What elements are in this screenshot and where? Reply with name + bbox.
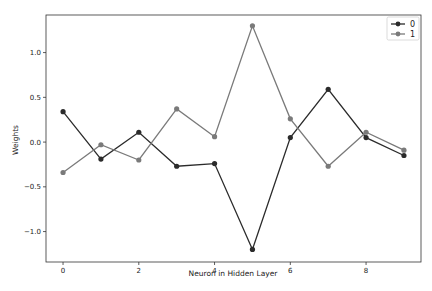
legend-label-1: 1	[410, 30, 415, 39]
x-axis-label: Neuron in Hidden Layer	[189, 269, 279, 278]
series-1-marker	[98, 142, 103, 147]
series-0-marker	[136, 130, 141, 135]
series-1-marker	[60, 170, 65, 175]
series-1-marker	[326, 164, 331, 169]
series-0-marker	[250, 247, 255, 252]
y-tick-label: 0.0	[30, 139, 41, 147]
series-0-marker	[326, 87, 331, 92]
legend: 01	[387, 17, 419, 40]
legend-label-0: 0	[410, 20, 415, 29]
series-0-marker	[174, 164, 179, 169]
series-1-marker	[250, 23, 255, 28]
x-tick-label: 0	[61, 267, 65, 275]
series-0-marker	[288, 135, 293, 140]
series-0-marker	[98, 156, 103, 161]
y-axis-ticks: 1.00.50.0−0.5−1.0	[24, 49, 46, 236]
y-axis-label: Weights	[11, 125, 20, 155]
series-0-marker	[401, 153, 406, 158]
legend-marker-0	[396, 22, 401, 27]
y-tick-label: −1.0	[24, 228, 41, 236]
legend-marker-1	[396, 32, 401, 37]
y-tick-label: −0.5	[24, 183, 41, 191]
x-tick-label: 6	[288, 267, 293, 275]
x-tick-label: 2	[137, 267, 141, 275]
y-tick-label: 1.0	[30, 49, 41, 57]
x-tick-label: 8	[364, 267, 368, 275]
series-1-marker	[288, 116, 293, 121]
series-1-marker	[212, 134, 217, 139]
series-1-marker	[174, 106, 179, 111]
series-1-marker	[401, 148, 406, 153]
series-0-marker	[60, 109, 65, 114]
series-1-marker	[363, 130, 368, 135]
y-tick-label: 0.5	[30, 94, 41, 102]
series-0-marker	[212, 161, 217, 166]
series-1-marker	[136, 157, 141, 162]
series-0-marker	[363, 135, 368, 140]
line-chart: 1.00.50.0−0.5−1.0 02468 Neuron in Hidden…	[0, 0, 432, 291]
